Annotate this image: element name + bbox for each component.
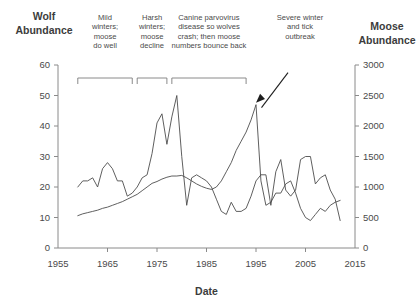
x-axis-tick-label: 2005: [295, 258, 316, 269]
right-axis-tick-label: 1000: [363, 181, 384, 192]
left-axis-tick-label: 40: [39, 120, 50, 131]
x-axis-tick-label: 1965: [97, 258, 118, 269]
annotation-label-severe-winter-tick: and tick: [287, 22, 313, 31]
annotation-label-mild-winters: moose: [94, 32, 117, 41]
chart-figure: 0102030405060050010001500200025003000195…: [0, 0, 416, 304]
left-axis-tick-label: 30: [39, 151, 50, 162]
right-axis-tick-label: 3000: [363, 59, 384, 70]
left-axis-tick-label: 10: [39, 212, 50, 223]
wolf-abundance-line: [78, 96, 340, 221]
left-axis-tick-label: 60: [39, 59, 50, 70]
annotation-arrow-line-severe-winter-tick: [262, 73, 289, 108]
x-axis-title: Date: [195, 285, 218, 297]
annotation-label-severe-winter-tick: Severe winter: [277, 13, 324, 22]
annotation-label-harsh-winters: moose: [141, 32, 164, 41]
annotation-label-mild-winters: Mild: [98, 13, 112, 22]
annotation-label-harsh-winters: Harsh: [142, 13, 162, 22]
annotation-label-canine-parvovirus: Canine parvovirus: [178, 13, 239, 22]
x-axis-tick-label: 2015: [344, 258, 365, 269]
left-axis-tick-label: 50: [39, 90, 50, 101]
right-axis-tick-label: 1500: [363, 151, 384, 162]
wolf-moose-abundance-chart: 0102030405060050010001500200025003000195…: [0, 0, 416, 304]
annotation-bracket-mild-winters: [78, 78, 132, 84]
left-axis-title-line1: Wolf: [33, 10, 56, 22]
annotation-label-severe-winter-tick: outbreak: [285, 32, 315, 41]
annotation-label-canine-parvovirus: disease so wolves: [178, 22, 240, 31]
annotation-label-harsh-winters: decline: [140, 41, 164, 50]
x-axis-tick-label: 1955: [47, 258, 68, 269]
annotation-label-harsh-winters: winters;: [138, 22, 165, 31]
annotation-label-mild-winters: do well: [93, 41, 117, 50]
right-axis-tick-label: 0: [363, 242, 368, 253]
right-axis-tick-label: 2000: [363, 120, 384, 131]
right-axis-title-line2: Abundance: [358, 34, 415, 46]
annotation-arrow-head-severe-winter-tick: [256, 94, 265, 103]
x-axis-tick-label: 1975: [146, 258, 167, 269]
moose-abundance-line: [78, 105, 340, 221]
left-axis-tick-label: 0: [45, 242, 50, 253]
left-axis-tick-label: 20: [39, 181, 50, 192]
annotation-label-mild-winters: winters;: [91, 22, 118, 31]
left-axis-title-line2: Abundance: [15, 24, 72, 36]
annotation-bracket-harsh-winters: [137, 78, 167, 84]
annotation-label-canine-parvovirus: crash; then moose: [178, 32, 240, 41]
x-axis-tick-label: 1995: [245, 258, 266, 269]
annotation-label-canine-parvovirus: numbers bounce back: [172, 41, 247, 50]
annotation-bracket-canine-parvovirus: [172, 78, 246, 84]
x-axis-tick-label: 1985: [196, 258, 217, 269]
right-axis-tick-label: 2500: [363, 90, 384, 101]
right-axis-tick-label: 500: [363, 212, 379, 223]
right-axis-title-line1: Moose: [370, 20, 403, 32]
